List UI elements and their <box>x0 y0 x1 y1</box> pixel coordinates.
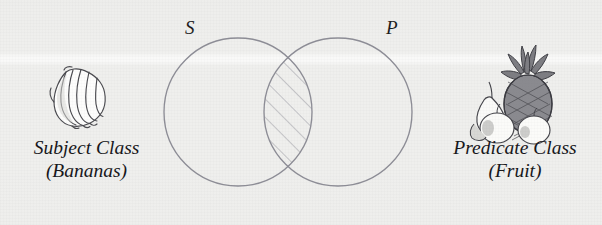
predicate-class-label-line2: (Fruit) <box>432 159 598 182</box>
bananas-illustration <box>50 67 105 129</box>
predicate-class-label-line1: Predicate Class <box>453 137 576 158</box>
predicate-circle-letter: P <box>386 17 398 39</box>
subject-class-label-line1: Subject Class <box>34 137 140 158</box>
subject-circle-letter: S <box>185 17 195 39</box>
venn-diagram-canvas <box>0 0 602 225</box>
intersection-region <box>264 38 412 186</box>
venn-diagram-figure: S P Subject Class (Bananas) Predicate Cl… <box>0 0 602 225</box>
subject-class-label: Subject Class (Bananas) <box>4 136 169 182</box>
predicate-class-label: Predicate Class (Fruit) <box>432 136 598 182</box>
subject-class-label-line2: (Bananas) <box>4 159 169 182</box>
fruit-illustration <box>470 45 555 144</box>
